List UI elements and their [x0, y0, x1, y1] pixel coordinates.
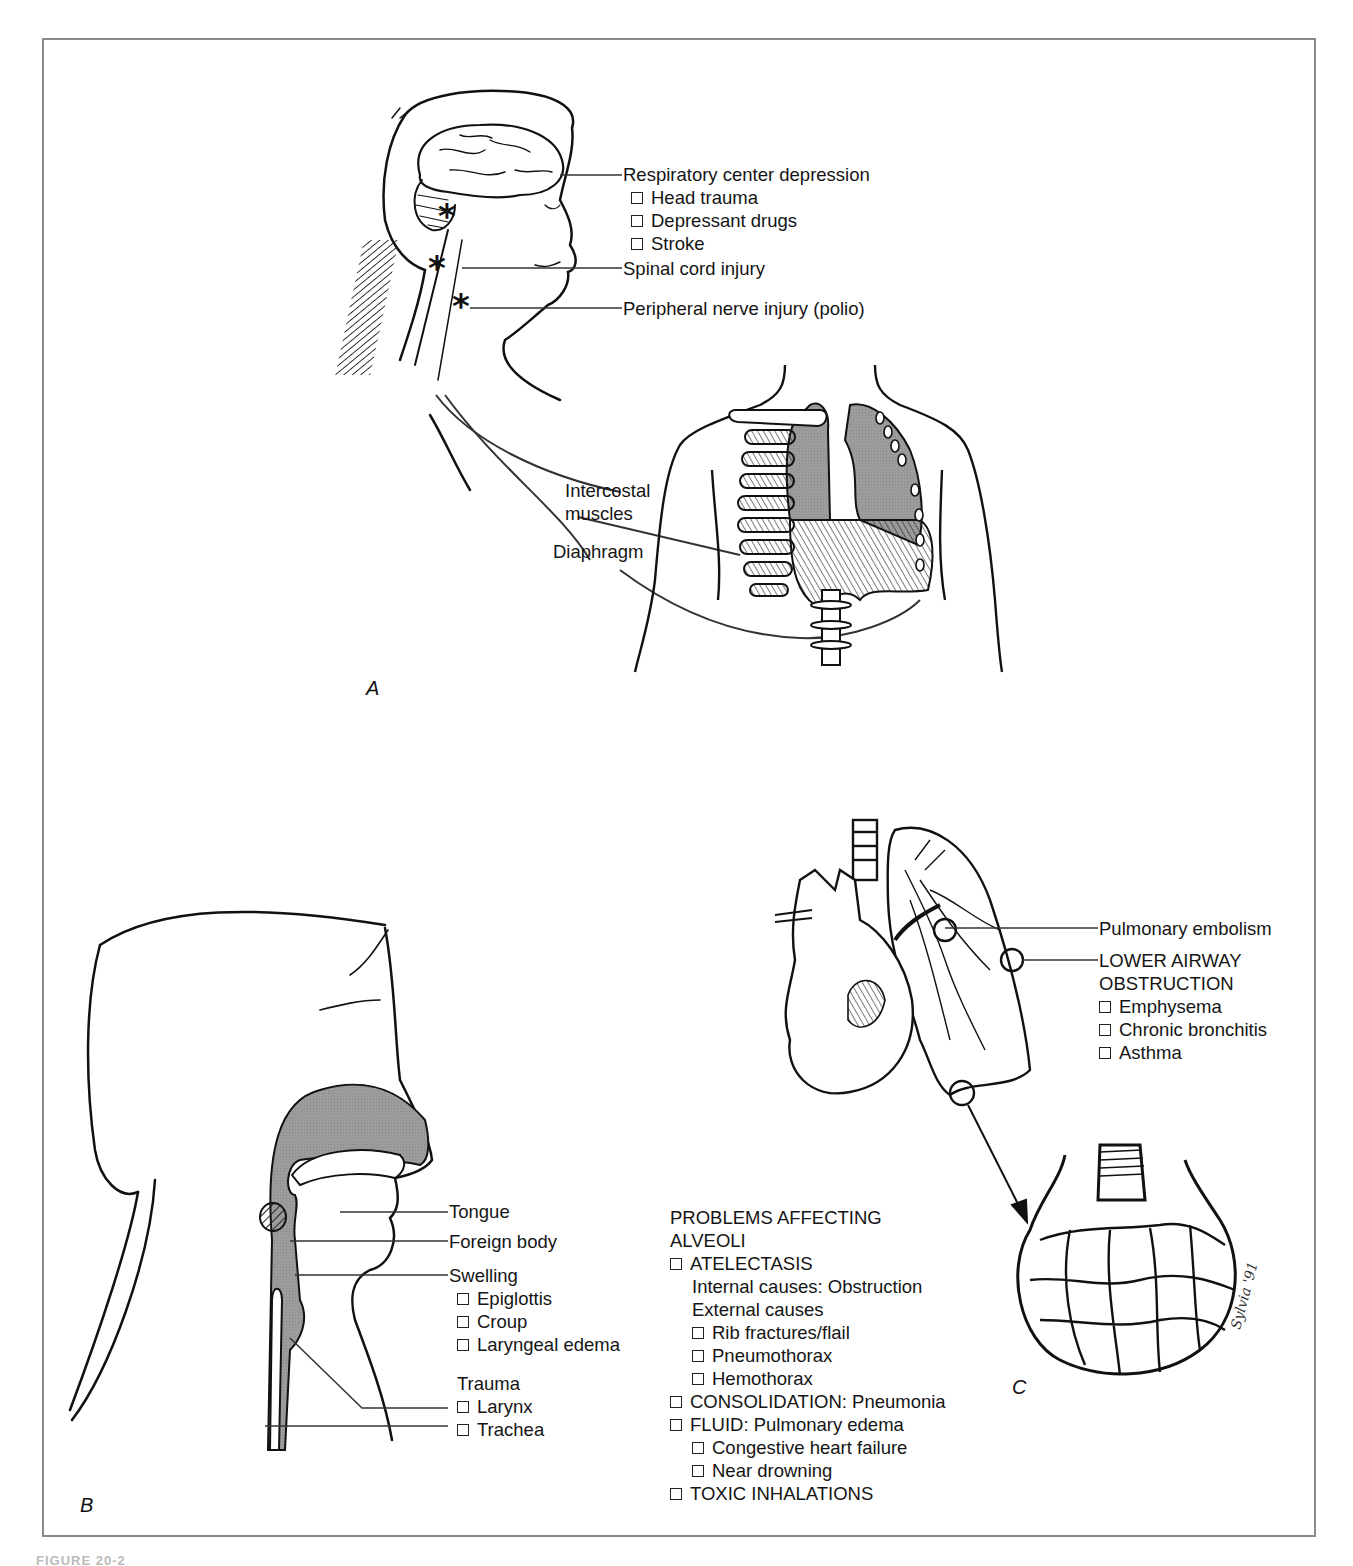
checkbox-icon [457, 1401, 469, 1413]
heart-lung-c [775, 820, 1030, 1105]
diaphragm-muscle [790, 520, 933, 605]
checkbox-icon [670, 1258, 682, 1270]
cause-item: Larynx [449, 1395, 544, 1418]
checkbox-icon [692, 1350, 704, 1362]
checkbox-icon [457, 1424, 469, 1436]
checkbox-icon [631, 192, 643, 204]
panel-letter-b: B [80, 1494, 93, 1517]
alveoli-problems-group: PROBLEMS AFFECTING ALVEOLI ATELECTASIS I… [670, 1206, 946, 1505]
figure-caption: FIGURE 20-2 [36, 1553, 126, 1566]
foreign-body [260, 1203, 286, 1231]
cause-item: Trachea [449, 1418, 544, 1441]
cause-item: Croup [449, 1310, 620, 1333]
asterisk-icon: * [428, 248, 446, 288]
tongue-label: Tongue [449, 1200, 510, 1223]
checkbox-icon [692, 1373, 704, 1385]
spine [811, 590, 851, 665]
cause-item: Epiglottis [449, 1287, 620, 1310]
asterisk-icon: * [452, 286, 470, 326]
cause-item: CONSOLIDATION: Pneumonia [670, 1390, 946, 1413]
cause-item: FLUID: Pulmonary edema [670, 1413, 946, 1436]
checkbox-icon [457, 1293, 469, 1305]
cause-item: ATELECTASIS [670, 1252, 946, 1275]
checkbox-icon [631, 238, 643, 250]
respiratory-center-group: Respiratory center depression Head traum… [623, 163, 870, 255]
swelling-group: Swelling Epiglottis Croup Laryngeal edem… [449, 1264, 620, 1356]
checkbox-icon [692, 1465, 704, 1477]
cause-item: Stroke [623, 232, 870, 255]
checkbox-icon [692, 1442, 704, 1454]
checkbox-icon [1099, 1024, 1111, 1036]
checkbox-icon [670, 1419, 682, 1431]
cause-item: Rib fractures/flail [670, 1321, 946, 1344]
checkbox-icon [692, 1327, 704, 1339]
cause-item: TOXIC INHALATIONS [670, 1482, 946, 1505]
cause-item: Near drowning [670, 1459, 946, 1482]
panel-letter-a: A [366, 677, 379, 700]
spinal-cord-label: Spinal cord injury [623, 257, 765, 280]
trauma-group: Trauma Larynx Trachea [449, 1372, 544, 1441]
cause-item: Congestive heart failure [670, 1436, 946, 1459]
checkbox-icon [670, 1488, 682, 1500]
asterisk-icon: * [438, 196, 456, 236]
diaphragm-label: Diaphragm [553, 540, 644, 563]
injury-markers: * * * [428, 196, 470, 326]
cause-item: Pneumothorax [670, 1344, 946, 1367]
cause-item: Laryngeal edema [449, 1333, 620, 1356]
zoom-arrow [968, 1105, 1027, 1222]
foreign-body-label: Foreign body [449, 1230, 557, 1253]
checkbox-icon [457, 1339, 469, 1351]
alveolar-sac [1018, 1145, 1236, 1375]
cause-item: Asthma [1099, 1041, 1267, 1064]
cause-item: Hemothorax [670, 1367, 946, 1390]
respiratory-center-title: Respiratory center depression [623, 163, 870, 186]
checkbox-icon [1099, 1001, 1111, 1013]
intercostal-label: Intercostal muscles [565, 479, 650, 525]
cause-item: Depressant drugs [623, 209, 870, 232]
pulmonary-embolism-label: Pulmonary embolism [1099, 917, 1272, 940]
cause-item: Chronic bronchitis [1099, 1018, 1267, 1041]
panel-letter-c: C [1012, 1376, 1026, 1399]
lower-airway-group: LOWER AIRWAY OBSTRUCTION Emphysema Chron… [1099, 949, 1267, 1064]
cause-item: Emphysema [1099, 995, 1267, 1018]
checkbox-icon [631, 215, 643, 227]
checkbox-icon [1099, 1047, 1111, 1059]
checkbox-icon [457, 1316, 469, 1328]
checkbox-icon [670, 1396, 682, 1408]
cause-item: Head trauma [623, 186, 870, 209]
peripheral-nerve-label: Peripheral nerve injury (polio) [623, 297, 865, 320]
